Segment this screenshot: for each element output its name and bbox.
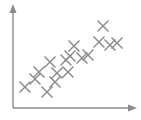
scatter-marker	[112, 38, 123, 49]
scatter-marker	[94, 37, 105, 48]
scatter-plot-figure	[0, 0, 141, 120]
scatter-marker	[105, 40, 116, 51]
scatter-marker	[52, 68, 63, 79]
x-axis-arrowhead	[128, 105, 137, 112]
scatter-marker	[65, 51, 76, 62]
y-axis-arrowhead	[10, 4, 17, 13]
scatter-marker	[20, 82, 31, 93]
scatter-marker	[98, 21, 109, 32]
scatter-marker	[42, 87, 53, 98]
scatter-marker	[45, 57, 56, 68]
scatter-marker	[69, 41, 80, 52]
y-axis	[10, 4, 17, 108]
scatter-plot-canvas	[0, 0, 141, 120]
scatter-marker	[63, 67, 74, 78]
x-axis	[13, 105, 137, 112]
scatter-marker-group	[20, 21, 123, 98]
